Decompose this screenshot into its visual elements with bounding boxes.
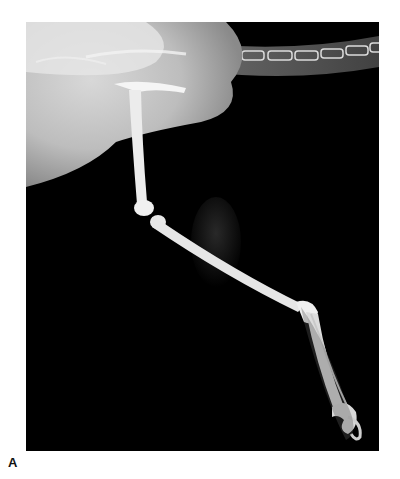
panel-label: A (8, 455, 17, 470)
xray-image (26, 22, 379, 451)
xray-graphic (26, 22, 379, 451)
